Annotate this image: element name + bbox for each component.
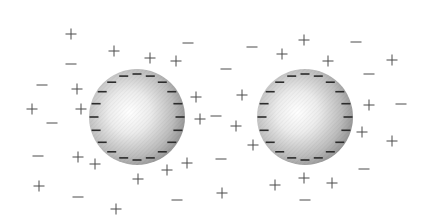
particle-texture [257, 69, 353, 165]
positive-ion-icon [327, 178, 338, 189]
particles-layer [89, 69, 353, 165]
positive-ion-icon [145, 53, 156, 64]
positive-ion-icon [27, 104, 38, 115]
positive-ion-icon [217, 188, 228, 199]
positive-ion-icon [111, 204, 122, 215]
particle-left [89, 69, 185, 165]
positive-ion-icon [299, 173, 310, 184]
positive-ion-icon [162, 165, 173, 176]
positive-ion-icon [248, 140, 259, 151]
positive-ion-icon [72, 84, 83, 95]
positive-ion-icon [34, 181, 45, 192]
positive-ion-icon [364, 100, 375, 111]
positive-ion-icon [66, 29, 77, 40]
particle-texture [89, 69, 185, 165]
positive-ion-icon [73, 152, 84, 163]
positive-ion-icon [76, 104, 87, 115]
positive-ion-icon [387, 136, 398, 147]
positive-ion-icon [109, 46, 120, 57]
positive-ion-icon [182, 158, 193, 169]
positive-ion-icon [231, 121, 242, 132]
positive-ion-icon [270, 180, 281, 191]
colloid-diagram [0, 0, 430, 216]
positive-ion-icon [277, 49, 288, 60]
positive-ion-icon [299, 35, 310, 46]
positive-ion-icon [171, 56, 182, 67]
particle-right [257, 69, 353, 165]
positive-ion-icon [90, 159, 101, 170]
positive-ion-icon [237, 90, 248, 101]
positive-ion-icon [195, 114, 206, 125]
positive-ion-icon [191, 92, 202, 103]
positive-ion-icon [387, 55, 398, 66]
positive-ion-icon [133, 174, 144, 185]
diagram-canvas [0, 0, 430, 216]
positive-ion-icon [357, 127, 368, 138]
positive-ion-icon [323, 56, 334, 67]
